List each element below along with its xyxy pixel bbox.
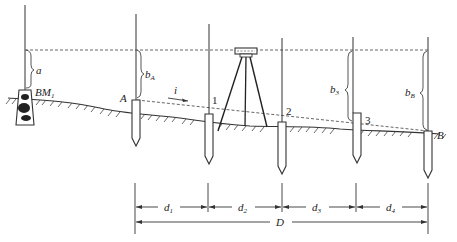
gradient-arrowhead — [182, 99, 188, 103]
label-d2: d2 — [238, 201, 248, 215]
label-point-b: B — [437, 129, 444, 141]
benchmark-block — [16, 90, 34, 125]
pin-2 — [278, 122, 286, 174]
label-a: a — [36, 64, 42, 76]
label-total-d: D — [275, 216, 284, 228]
pin-b — [424, 131, 432, 178]
label-bb: bB — [405, 86, 416, 100]
brace-b3 — [345, 51, 352, 121]
label-d3: d3 — [312, 201, 322, 215]
label-d4: d4 — [386, 201, 396, 215]
ground-profile — [8, 98, 440, 134]
brace-ba — [137, 50, 144, 98]
label-point-a: A — [119, 92, 127, 104]
label-ba: bA — [145, 68, 156, 82]
label-bm: BM1 — [35, 86, 54, 100]
pin-a — [132, 100, 140, 146]
label-point-1: 1 — [212, 94, 218, 106]
level-instrument — [218, 48, 267, 131]
label-point-3: 3 — [365, 114, 371, 126]
label-point-2: 2 — [286, 105, 292, 117]
brace-bb — [420, 51, 427, 130]
label-d1: d1 — [164, 201, 173, 215]
label-i: i — [174, 84, 177, 96]
pin-3 — [353, 113, 361, 163]
pin-1 — [205, 114, 213, 164]
levelling-diagram: a BM1 bA A i 1 2 b3 3 bB B — [0, 0, 457, 242]
brace-a — [26, 50, 34, 88]
label-b3: b3 — [330, 83, 340, 97]
